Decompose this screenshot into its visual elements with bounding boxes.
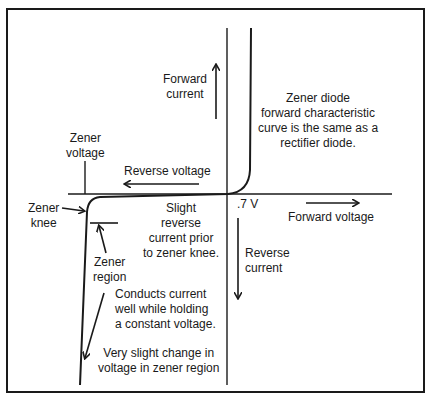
- slight-reverse-current-label: Slight reverse current prior to zener kn…: [143, 201, 219, 261]
- forward-voltage-label: Forward voltage: [288, 210, 374, 225]
- forward-note: Zener diode forward characteristic curve…: [258, 91, 378, 151]
- zener-region-label: Zener region: [93, 255, 126, 285]
- conducts-current-label: Conducts current well while holding a co…: [115, 287, 216, 332]
- slight-change-label: Very slight change in voltage in zener r…: [98, 346, 219, 376]
- zener-region-arrow-up: [99, 226, 106, 253]
- zener-knee-label: Zener knee: [28, 201, 59, 231]
- zener-voltage-label: Zener voltage: [66, 131, 105, 161]
- forward-current-label: Forward current: [163, 72, 207, 102]
- knee-voltage-label: .7 V: [237, 197, 258, 212]
- zener-knee-arrow: [62, 208, 84, 211]
- reverse-current-label: Reverse current: [245, 246, 290, 276]
- reverse-voltage-label: Reverse voltage: [124, 164, 211, 179]
